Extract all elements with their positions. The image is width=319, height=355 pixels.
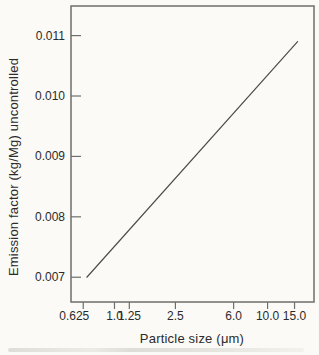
y-tick-label: 0.007 xyxy=(35,270,65,284)
x-tick-label: 6.0 xyxy=(225,309,242,323)
chart-canvas: 0.0070.0080.0090.0100.0110.6251.01.252.5… xyxy=(0,0,319,355)
x-tick-label: 15.0 xyxy=(283,309,307,323)
x-tick-label: 2.5 xyxy=(167,309,184,323)
scan-artifact-band xyxy=(8,348,304,352)
data-line-uncontrolled-emission-factor xyxy=(87,42,298,278)
emission-factor-figure: 0.0070.0080.0090.0100.0110.6251.01.252.5… xyxy=(0,0,319,355)
x-tick-label: 1.25 xyxy=(118,309,142,323)
x-tick-label: 10.0 xyxy=(256,309,280,323)
y-axis-title: Emission factor (kg/Mg) uncontrolled xyxy=(6,58,21,276)
y-tick-label: 0.009 xyxy=(35,149,65,163)
x-tick-label: 0.625 xyxy=(59,309,89,323)
x-axis-title: Particle size (μm) xyxy=(140,331,244,346)
plot-frame xyxy=(71,6,314,302)
y-tick-label: 0.010 xyxy=(35,89,65,103)
y-tick-label: 0.011 xyxy=(36,29,65,43)
y-tick-label: 0.008 xyxy=(35,210,65,224)
